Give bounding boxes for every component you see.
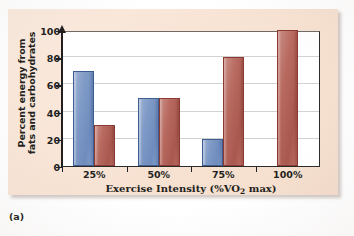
bar-fats-75[interactable] <box>202 139 223 166</box>
bar-group <box>62 32 127 166</box>
x-tickmark <box>191 167 192 172</box>
bar-carbohydrates-50[interactable] <box>159 98 180 166</box>
x-tick-label: 25% <box>83 169 106 180</box>
y-tickmark <box>56 113 62 114</box>
y-tickmark <box>56 140 62 141</box>
y-tickmark <box>56 58 62 59</box>
plot-wrapper <box>62 31 320 167</box>
bar-fats-50[interactable] <box>138 98 159 166</box>
x-tick-label: 50% <box>147 169 170 180</box>
bar-fats-25[interactable] <box>73 71 94 166</box>
x-tickmark <box>62 167 63 172</box>
x-axis-title-subscript: 2 <box>240 187 245 196</box>
y-axis-line <box>61 31 63 168</box>
plot-area <box>62 31 320 167</box>
x-tickmark <box>127 167 128 172</box>
bar-carbohydrates-100[interactable] <box>277 30 298 166</box>
y-tickmark <box>56 85 62 86</box>
x-tick-label: 75% <box>212 169 235 180</box>
x-axis-title: Exercise Intensity (%VO2 max) <box>62 183 320 194</box>
bar-carbohydrates-25[interactable] <box>94 125 115 166</box>
bar-group <box>256 32 321 166</box>
y-axis-tick-labels: 020406080100 <box>36 0 60 236</box>
x-axis-title-pre: Exercise Intensity (%VO <box>105 183 240 194</box>
x-tick-label: 100% <box>273 169 302 180</box>
bar-group <box>191 32 256 166</box>
figure-panel: Percent energy from fats and carbohydrat… <box>0 0 354 236</box>
bar-carbohydrates-75[interactable] <box>223 57 244 166</box>
bar-group <box>127 32 192 166</box>
y-tickmark <box>56 31 62 32</box>
x-axis-title-post: max) <box>245 183 276 194</box>
figure-caption: (a) <box>9 211 24 222</box>
x-tickmark <box>256 167 257 172</box>
